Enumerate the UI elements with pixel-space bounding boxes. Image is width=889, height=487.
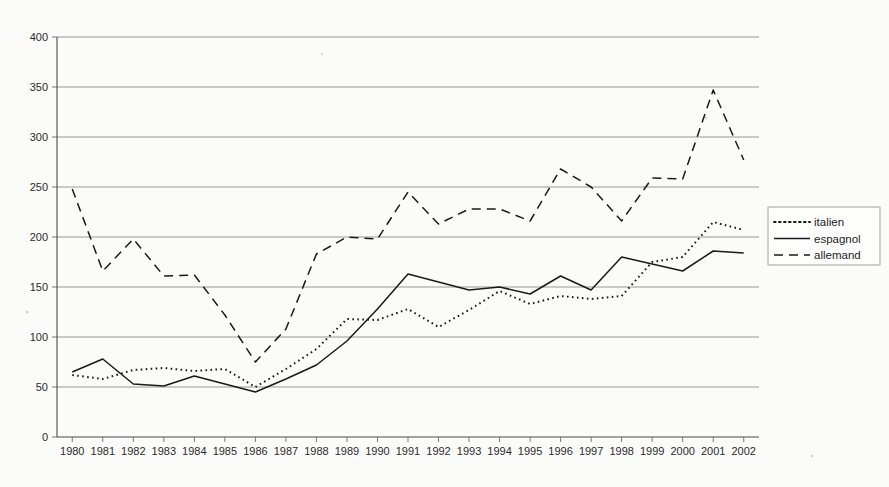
x-tick-label: 1998 — [609, 445, 633, 457]
x-tick-marks — [72, 437, 743, 442]
scan-noise-layer — [25, 53, 813, 458]
x-tick-label: 1981 — [91, 445, 115, 457]
x-tick-label: 1986 — [243, 445, 267, 457]
y-tick-label: 150 — [30, 281, 48, 293]
y-axis-tick-labels: 050100150200250300350400 — [30, 31, 48, 443]
x-tick-label: 2002 — [731, 445, 755, 457]
x-tick-label: 1995 — [518, 445, 542, 457]
chart-canvas: 050100150200250300350400 198019811982198… — [0, 0, 889, 487]
y-tick-marks — [52, 37, 57, 437]
x-tick-label: 1989 — [335, 445, 359, 457]
series-line-espagnol — [72, 251, 743, 392]
y-tick-label: 250 — [30, 181, 48, 193]
legend-label-espagnol: espagnol — [814, 233, 861, 245]
x-tick-label: 1990 — [365, 445, 389, 457]
x-tick-label: 1985 — [213, 445, 237, 457]
x-tick-label: 1997 — [579, 445, 603, 457]
x-tick-label: 2000 — [670, 445, 694, 457]
x-tick-label: 1980 — [60, 445, 84, 457]
series-line-allemand — [72, 90, 743, 362]
x-tick-label: 1988 — [304, 445, 328, 457]
y-tick-label: 300 — [30, 131, 48, 143]
y-tick-label: 0 — [42, 431, 48, 443]
x-tick-label: 1996 — [548, 445, 572, 457]
x-tick-label: 1991 — [396, 445, 420, 457]
x-tick-label: 1999 — [640, 445, 664, 457]
x-tick-label: 1994 — [487, 445, 511, 457]
x-tick-label: 1993 — [457, 445, 481, 457]
x-tick-label: 1987 — [274, 445, 298, 457]
data-series-layer — [72, 90, 743, 392]
y-tick-label: 350 — [30, 81, 48, 93]
x-tick-label: 1982 — [121, 445, 145, 457]
legend-label-allemand: allemand — [814, 249, 861, 261]
x-tick-label: 1984 — [182, 445, 206, 457]
x-tick-label: 2001 — [701, 445, 725, 457]
line-chart: 050100150200250300350400 198019811982198… — [0, 0, 889, 487]
y-tick-label: 200 — [30, 231, 48, 243]
y-tick-label: 50 — [36, 381, 48, 393]
gridlines — [57, 37, 759, 387]
legend-label-italien: italien — [814, 216, 844, 228]
x-tick-label: 1992 — [426, 445, 450, 457]
series-line-italien — [72, 222, 743, 387]
x-axis-tick-labels: 1980198119821983198419851986198719881989… — [60, 445, 756, 457]
y-tick-label: 100 — [30, 331, 48, 343]
x-tick-label: 1983 — [152, 445, 176, 457]
chart-legend: italienespagnolallemand — [768, 207, 880, 265]
y-tick-label: 400 — [30, 31, 48, 43]
